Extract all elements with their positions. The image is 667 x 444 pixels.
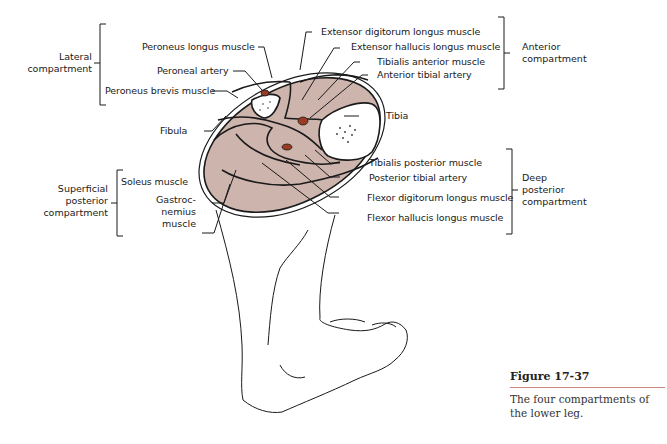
label-line: muscle — [130, 218, 196, 230]
label-extensor-digitorum: Extensor digitorum longus muscle — [321, 26, 480, 38]
label-tibia: Tibia — [386, 110, 408, 122]
group-line: compartment — [22, 63, 92, 75]
figure-number: Figure 17-37 — [510, 370, 665, 388]
label-peroneus-brevis: Peroneus brevis muscle — [105, 85, 215, 97]
label-flexor-hallucis: Flexor hallucis longus muscle — [367, 212, 503, 224]
figure-caption-text: The four compartments of the lower leg. — [510, 392, 665, 420]
group-line: posterior — [30, 195, 108, 207]
group-line: compartment — [522, 196, 587, 208]
label-gastrocnemius: Gastroc- nemius muscle — [130, 194, 196, 230]
lower-leg-compartments-figure: Lateral compartment Anterior compartment… — [0, 0, 667, 444]
group-line: Deep — [522, 172, 587, 184]
label-tibialis-posterior: Tibialis posterior muscle — [369, 157, 482, 169]
label-line: nemius — [130, 206, 196, 218]
group-line: Anterior — [522, 41, 587, 53]
label-posterior-tibial-artery: Posterior tibial artery — [369, 172, 467, 184]
label-tibialis-anterior: Tibialis anterior muscle — [377, 56, 485, 68]
figure-caption: Figure 17-37 The four compartments of th… — [510, 370, 665, 420]
label-soleus: Soleus muscle — [121, 176, 188, 188]
group-line: Superficial — [30, 183, 108, 195]
leg-foot-outline — [216, 210, 407, 413]
group-line: compartment — [30, 207, 108, 219]
label-peroneus-longus: Peroneus longus muscle — [142, 41, 255, 53]
group-line: posterior — [522, 184, 587, 196]
label-peroneal-artery: Peroneal artery — [157, 65, 228, 77]
group-label-deep-posterior: Deep posterior compartment — [522, 172, 587, 208]
group-line: compartment — [522, 53, 587, 65]
group-label-lateral: Lateral compartment — [22, 51, 92, 75]
label-anterior-tibial-artery: Anterior tibial artery — [377, 69, 472, 81]
group-label-anterior: Anterior compartment — [522, 41, 587, 65]
label-flexor-digitorum: Flexor digitorum longus muscle — [367, 192, 513, 204]
group-line: Lateral — [22, 51, 92, 63]
label-line: Gastroc- — [130, 194, 196, 206]
label-fibula: Fibula — [160, 125, 187, 137]
group-label-superficial-posterior: Superficial posterior compartment — [30, 183, 108, 219]
label-extensor-hallucis: Extensor hallucis longus muscle — [351, 41, 500, 53]
